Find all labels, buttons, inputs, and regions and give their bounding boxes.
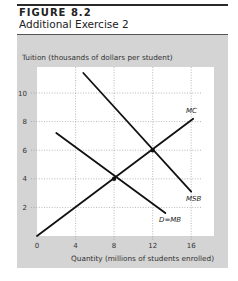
intersection-msb-mc <box>151 148 155 152</box>
x-tick-4: 4 <box>73 242 78 250</box>
dmb-label: D=MB <box>159 216 181 224</box>
x-tick-12: 12 <box>148 242 157 250</box>
y-tick-8: 8 <box>23 118 27 126</box>
y-tick-6: 6 <box>23 147 28 155</box>
x-tick-16: 16 <box>187 242 196 250</box>
y-tick-2: 2 <box>23 204 27 212</box>
mc-label: MC <box>186 107 197 115</box>
y-axis-label: Tuition (thousands of dollars per studen… <box>21 53 173 62</box>
intersection-mb-mc <box>112 177 116 181</box>
y-tick-4: 4 <box>23 175 28 183</box>
chart: Tuition (thousands of dollars per studen… <box>0 0 238 281</box>
msb-label: MSB <box>186 195 201 203</box>
y-tick-10: 10 <box>18 90 27 98</box>
x-tick-8: 8 <box>112 242 116 250</box>
x-tick-0: 0 <box>35 242 39 250</box>
x-axis-label: Quantity (millions of students enrolled) <box>71 254 214 263</box>
plot-area <box>37 67 214 236</box>
